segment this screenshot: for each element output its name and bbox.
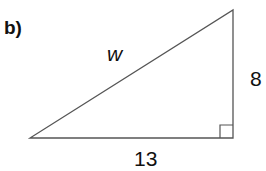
triangle (30, 10, 233, 138)
vertical-side-label: 8 (250, 68, 262, 89)
horizontal-side-label: 13 (134, 148, 157, 169)
hypotenuse-label: w (107, 43, 122, 64)
part-label: b) (4, 18, 22, 37)
right-triangle-diagram (0, 0, 266, 171)
right-angle-marker-icon (220, 125, 233, 138)
